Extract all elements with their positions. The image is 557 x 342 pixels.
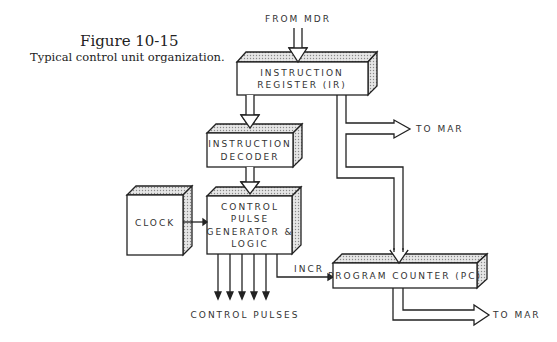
cpg-label-line1: CONTROL — [221, 202, 279, 212]
cpg-label-line2: PULSE — [231, 214, 269, 224]
control-pulse-lines — [215, 254, 269, 299]
control-pulses-label: CONTROL PULSES — [191, 310, 300, 320]
decoder-label-line2: DECODER — [221, 152, 280, 162]
pc-label: PROGRAM COUNTER (PC) — [328, 271, 482, 281]
incr-label: INCR — [294, 264, 324, 274]
ir-to-mar-label: TO MAR — [415, 124, 464, 134]
decoder-label-line1: INSTRUCTION — [208, 139, 292, 149]
clock-label: CLOCK — [135, 218, 175, 228]
cpg-label-line4: LOGIC — [231, 239, 269, 249]
ir-label-line2: REGISTER (IR) — [257, 80, 347, 90]
pc-to-mar-arrow — [393, 288, 489, 325]
ir-to-mar-bus — [337, 95, 410, 263]
pc-to-mar-label: TO MAR — [492, 310, 541, 320]
ir-label-line1: INSTRUCTION — [260, 68, 344, 78]
cpg-label-line3: GENERATOR & — [206, 227, 293, 237]
control-unit-diagram: FROM MDR INSTRUCTION REGISTER (IR) INSTR… — [0, 0, 557, 342]
from-mdr-label: FROM MDR — [265, 14, 331, 24]
